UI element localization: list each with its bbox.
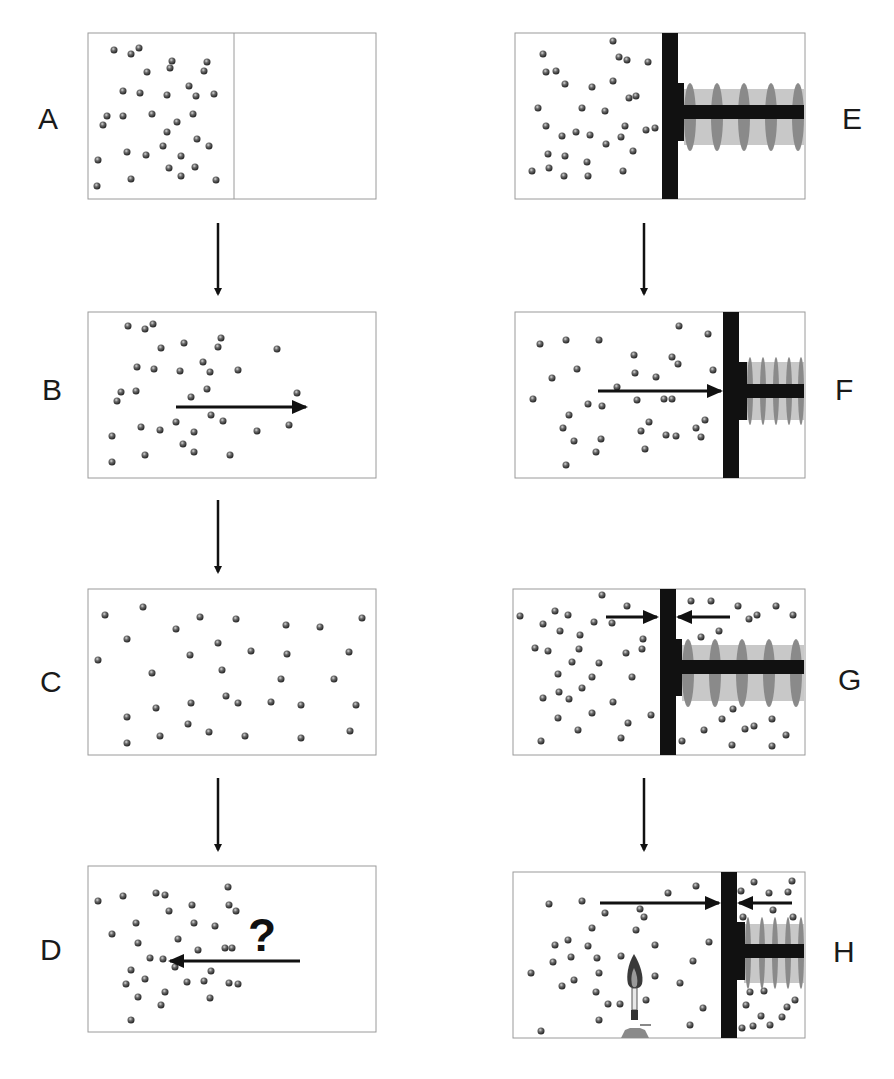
panel-a — [88, 33, 376, 199]
question-mark: ? — [248, 909, 276, 961]
panel-d: ? — [88, 866, 376, 1032]
panel-b — [88, 312, 376, 478]
panel-g — [513, 589, 805, 755]
panel-h — [513, 872, 805, 1038]
panel-c — [88, 589, 376, 755]
diagram-canvas: ? — [0, 0, 894, 1079]
panel-e — [515, 33, 805, 199]
panel-f — [515, 312, 805, 478]
